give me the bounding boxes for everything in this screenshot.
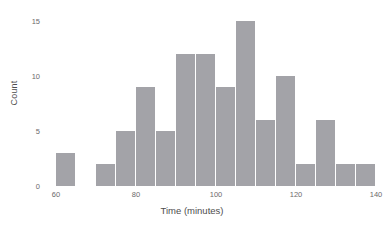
histogram-bar (196, 54, 215, 186)
y-axis-tick-label: 10 (22, 71, 40, 80)
histogram-bar (56, 153, 75, 186)
y-axis-tick-label: 0 (22, 182, 40, 191)
x-axis-tick-label: 100 (210, 190, 223, 199)
histogram-bar (236, 21, 255, 186)
histogram-bar (96, 164, 115, 186)
x-axis-tick-label: 60 (52, 190, 60, 199)
histogram-bar (216, 87, 235, 186)
y-axis-tick-labels: 051015 (18, 0, 40, 232)
histogram-bar (156, 131, 175, 186)
histogram-chart: Count 051015 6080100120140 Time (minutes… (0, 0, 384, 232)
x-axis-tick-labels: 6080100120140 (46, 190, 376, 204)
histogram-bar (116, 131, 135, 186)
histogram-bar (176, 54, 195, 186)
x-axis-title: Time (minutes) (0, 205, 384, 216)
plot-area (46, 12, 376, 186)
histogram-bar (256, 120, 275, 186)
x-axis-title-text: Time (minutes) (161, 205, 224, 216)
histogram-bar (336, 164, 355, 186)
histogram-bar (356, 164, 375, 186)
x-axis-tick-label: 140 (370, 190, 383, 199)
y-axis-tick-label: 5 (22, 126, 40, 135)
x-axis-tick-label: 80 (132, 190, 140, 199)
histogram-bar (136, 87, 155, 186)
histogram-bar (296, 164, 315, 186)
x-axis-tick-label: 120 (290, 190, 303, 199)
histogram-bar (316, 120, 335, 186)
y-axis-tick-label: 15 (22, 16, 40, 25)
histogram-bar (276, 76, 295, 186)
